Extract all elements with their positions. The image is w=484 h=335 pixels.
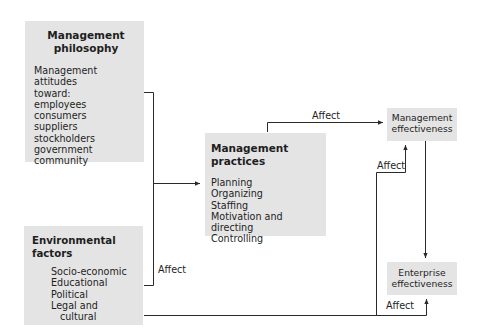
list-item: stockholders bbox=[34, 133, 138, 144]
title-line: Management bbox=[387, 112, 457, 123]
list-item: Planning bbox=[211, 177, 322, 188]
list-item-continuation: cultural bbox=[51, 311, 139, 322]
environment-to-enterprise-arrow bbox=[144, 299, 427, 316]
philosophy-to-practices-connector bbox=[144, 93, 154, 286]
title-line: Management bbox=[34, 29, 138, 42]
management-philosophy-title: Management philosophy bbox=[34, 29, 138, 55]
management-effectiveness-box: Management effectiveness bbox=[387, 108, 457, 141]
title-line: Enterprise bbox=[387, 267, 457, 278]
list-item: Organizing bbox=[211, 188, 322, 199]
list-item: community bbox=[34, 155, 138, 166]
management-philosophy-box: Management philosophy Management attitud… bbox=[25, 21, 144, 162]
list-item: consumers bbox=[34, 110, 138, 121]
list-item: Staffing bbox=[211, 200, 322, 211]
environmental-factors-box: Environmental factors Socio-economic Edu… bbox=[24, 226, 143, 325]
list-item: Legal and bbox=[51, 300, 139, 311]
list-item: suppliers bbox=[34, 121, 138, 132]
title-line: effectiveness bbox=[387, 123, 457, 134]
management-practices-body: Planning Organizing Staffing Motivation … bbox=[211, 177, 322, 245]
list-item: Motivation and directing bbox=[211, 211, 322, 234]
edge-label-env-to-practices: Affect bbox=[158, 264, 186, 275]
management-philosophy-body: Management attitudes toward: employees c… bbox=[34, 65, 138, 167]
edge-label-env-to-mgmt: Affect bbox=[377, 160, 405, 171]
edge-label-practices-to-mgmt: Affect bbox=[312, 110, 340, 121]
practices-to-mgmt-eff-arrow bbox=[268, 123, 384, 133]
list-item: Controlling bbox=[211, 233, 322, 244]
environmental-factors-title: Environmental factors bbox=[32, 234, 139, 260]
title-line: effectiveness bbox=[387, 278, 457, 289]
management-practices-box: Management practices Planning Organizing… bbox=[205, 133, 326, 236]
intro-line: toward: bbox=[34, 88, 138, 99]
intro-line: Management attitudes bbox=[34, 65, 138, 88]
list-item: Socio-economic bbox=[51, 266, 139, 277]
list-item: employees bbox=[34, 99, 138, 110]
edge-label-env-to-enterprise: Affect bbox=[386, 300, 414, 311]
list-item: government bbox=[34, 144, 138, 155]
enterprise-effectiveness-box: Enterprise effectiveness bbox=[387, 262, 457, 295]
list-item: Educational bbox=[51, 277, 139, 288]
title-line: philosophy bbox=[34, 42, 138, 55]
list-item: Political bbox=[51, 289, 139, 300]
environmental-factors-body: Socio-economic Educational Political Leg… bbox=[32, 266, 139, 322]
management-practices-title: Management practices bbox=[211, 142, 322, 168]
